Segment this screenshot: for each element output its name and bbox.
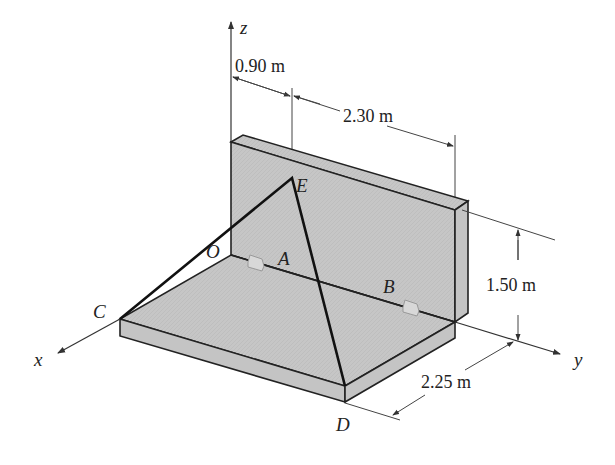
y-axis-label: y	[572, 349, 583, 370]
point-e-label: E	[295, 175, 308, 196]
dimension-2-25: 2.25 m	[421, 372, 471, 392]
dimension-2-30: 2.30 m	[343, 106, 393, 126]
point-a-label: A	[276, 248, 290, 269]
point-b-label: B	[383, 276, 395, 297]
dimension-0-90: 0.90 m	[235, 56, 285, 76]
x-axis-label: x	[33, 349, 43, 370]
dimension-1-50: 1.50 m	[486, 275, 536, 295]
point-o-label: O	[206, 241, 220, 262]
point-c-label: C	[93, 301, 106, 322]
point-d-label: D	[335, 414, 350, 435]
x-axis	[58, 319, 120, 353]
z-axis-label: z	[239, 17, 248, 38]
statics-diagram: z 0.90 m 2.30 m	[0, 0, 615, 465]
y-axis	[455, 322, 560, 354]
